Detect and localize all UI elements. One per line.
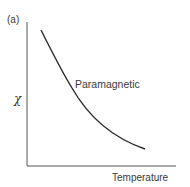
- chart-plot: [0, 0, 190, 187]
- y-axis-label: χ: [14, 92, 21, 106]
- x-axis-label: Temperature: [112, 172, 168, 183]
- curve-annotation: Paramagnetic: [75, 78, 140, 90]
- panel-label: (a): [7, 14, 19, 25]
